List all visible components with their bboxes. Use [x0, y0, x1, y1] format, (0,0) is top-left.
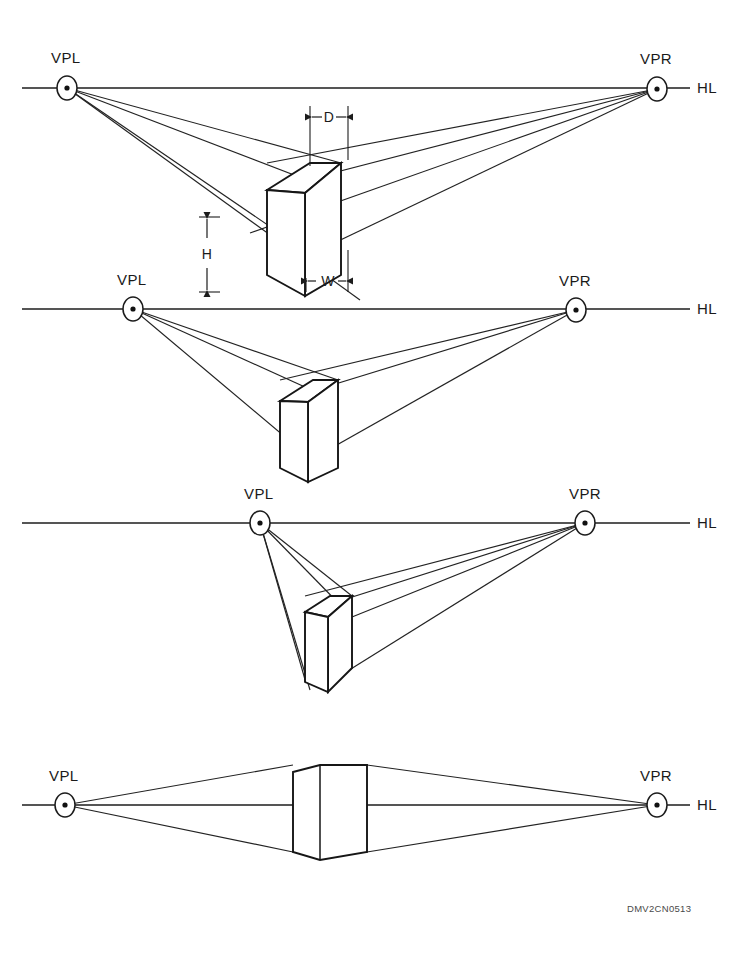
perspective-box [305, 596, 352, 692]
dimension-label-depth: D [324, 109, 335, 125]
dimension-depth: D [310, 106, 348, 166]
two-point-perspective-illustration: D W H VPL VPR [0, 0, 747, 970]
horizon-line-label: HL [697, 514, 717, 531]
vpr-label: VPR [559, 272, 591, 289]
rays-from-vpl [65, 765, 293, 852]
horizon-line-label: HL [697, 796, 717, 813]
vanishing-point-right: VPR [559, 272, 591, 322]
dimension-label-height: H [202, 246, 213, 262]
diagram-3-vpl-near: VPL VPR HL [22, 485, 717, 692]
vanishing-point-left: VPL [244, 485, 274, 535]
diagram-4-on-horizon: VPL VPR HL [22, 765, 717, 860]
dimension-label-width: W [321, 273, 335, 289]
vanishing-point-left: VPL [117, 271, 147, 321]
vpl-label: VPL [49, 767, 79, 784]
perspective-figure-container: D W H VPL VPR [0, 0, 747, 970]
perspective-box [280, 380, 338, 482]
vanishing-point-left: VPL [49, 767, 79, 817]
vpl-label: VPL [51, 49, 81, 66]
dimension-height: H [199, 217, 220, 292]
vpl-label: VPL [117, 271, 147, 288]
diagram-2-medium-spread: VPL VPR HL [22, 271, 717, 482]
vpr-label: VPR [640, 50, 672, 67]
figure-code: DMV2CN0513 [627, 903, 691, 914]
horizon-line-label: HL [697, 300, 717, 317]
vpr-label: VPR [640, 767, 672, 784]
rays-from-vpr [367, 765, 657, 852]
vpl-label: VPL [244, 485, 274, 502]
vanishing-point-left: VPL [51, 49, 81, 100]
perspective-box [293, 765, 367, 860]
vpr-label: VPR [569, 485, 601, 502]
vanishing-point-right: VPR [640, 767, 672, 817]
diagram-1-wide-spread: D W H VPL VPR [22, 49, 717, 300]
horizon-line-label: HL [697, 79, 717, 96]
